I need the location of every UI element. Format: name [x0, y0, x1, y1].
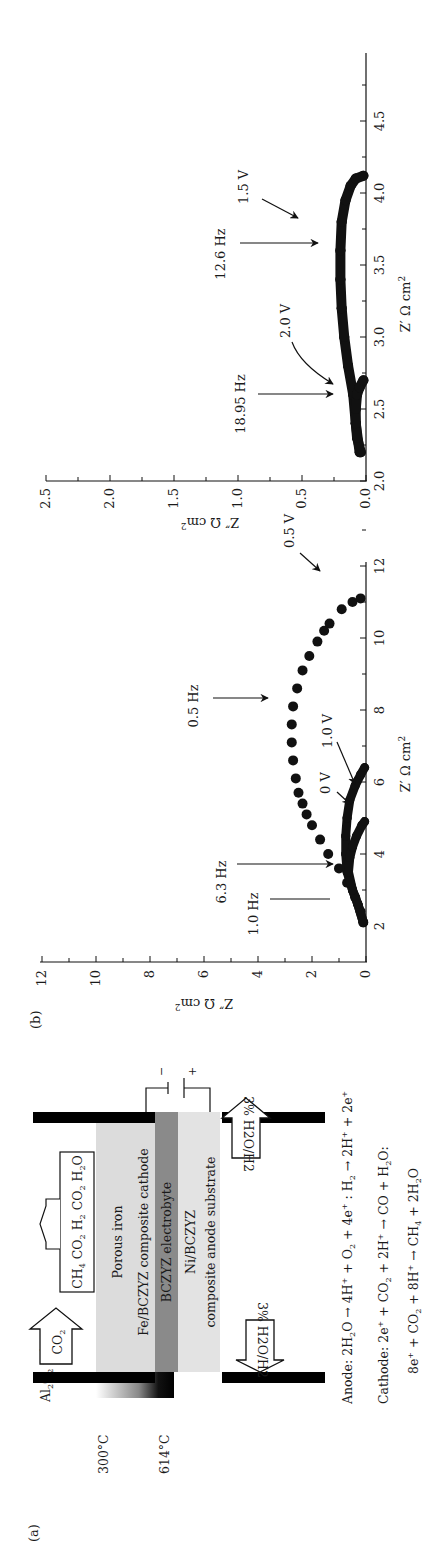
exhaust-label: CH4 CO2 H2 CO2 H2O [70, 1155, 87, 1289]
x-axis-ticks: 2.02.53.03.54.04.5 [360, 85, 387, 491]
tube-wall-top-left [33, 1112, 155, 1123]
label-12.6hz: 12.6 Hz [213, 228, 228, 279]
data-point [358, 375, 368, 385]
svg-text:4.5: 4.5 [372, 111, 387, 132]
data-point [312, 637, 322, 647]
electrolyte-label: BCZYZ electrobyte [159, 1182, 174, 1302]
data-point [323, 849, 333, 859]
panel-b-label: (b) [28, 1011, 43, 1029]
figure-frame: (a) 300°C 614°C Al2O2 tube Porous iron F… [0, 0, 439, 1554]
svg-text:2.0: 2.0 [372, 471, 387, 492]
data-point [288, 755, 298, 765]
data-point [325, 619, 335, 629]
data-point [287, 719, 297, 729]
negative-terminal: − [155, 1067, 168, 1076]
data-point [288, 701, 298, 711]
data-point [287, 737, 297, 747]
label-18.95hz: 18.95 Hz [233, 374, 248, 434]
cathode-equation-1: Cathode: 2e+ + CO2 + 2H+ → CO + H2O: [376, 1146, 393, 1404]
svg-text:10: 10 [88, 970, 103, 987]
arrow-2.0v [292, 342, 333, 384]
svg-text:1.0: 1.0 [230, 488, 245, 509]
anode-inlet-label: 3% H2O/H2 [255, 1302, 270, 1378]
label-0.5hz: 0.5 Hz [186, 684, 201, 727]
panel-a-label: (a) [26, 1524, 41, 1542]
data-point [337, 604, 347, 614]
svg-text:12: 12 [372, 558, 387, 575]
svg-text:1.5: 1.5 [166, 488, 181, 509]
label-0.5v: 0.5 V [282, 513, 297, 548]
data-point [315, 835, 325, 845]
svg-text:8: 8 [372, 706, 387, 714]
arrow-1.0v [337, 742, 355, 784]
data-point [291, 773, 301, 783]
x-axis-ticks: 24681012 [360, 530, 387, 930]
svg-text:3.5: 3.5 [372, 255, 387, 276]
anode-label-2: composite anode substrate [203, 1157, 218, 1328]
svg-text:6: 6 [196, 970, 211, 978]
svg-text:0.0: 0.0 [358, 488, 373, 509]
svg-text:2: 2 [304, 970, 319, 978]
y-axis-label: Z″ Ω cm2 [181, 515, 239, 531]
data-point [356, 593, 366, 603]
arrow-1.5v [262, 199, 298, 218]
label-6.3hz: 6.3 Hz [214, 860, 229, 903]
label-0v: 0 V [318, 772, 333, 794]
x-axis-label: Z′ Ω cm2 [397, 736, 413, 792]
arrow-0.5v [300, 553, 320, 571]
label-1.0v: 1.0 V [320, 713, 335, 748]
svg-text:2.5: 2.5 [38, 488, 53, 509]
svg-text:2.0: 2.0 [102, 488, 117, 509]
data-point [292, 683, 302, 693]
power-source: − + [146, 1067, 210, 1112]
data-point [294, 788, 304, 798]
data-points [335, 171, 368, 457]
x-axis-label: Z′ Ω cm2 [397, 276, 413, 332]
tube-wall-bottom-left [33, 1372, 155, 1383]
panel-a-diagram: (a) 300°C 614°C Al2O2 tube Porous iron F… [18, 1067, 423, 1542]
svg-text:0.5: 0.5 [294, 488, 309, 509]
cathode-equation-2: 8e+ + CO2 + 8H+ → CH4 + 2H2O [406, 1168, 423, 1374]
label-1.0hz: 1.0 Hz [246, 892, 261, 935]
data-point [298, 799, 308, 809]
cathode-label-1: Porous iron [110, 1206, 125, 1279]
data-point [358, 171, 368, 181]
svg-text:2.5: 2.5 [372, 399, 387, 420]
cathode-label-2: Fe/BCZYZ composite cathode [136, 1148, 151, 1335]
data-point [360, 763, 369, 772]
anode-equation: Anode: 2H2O → 4H+ + O2 + 4e+ : H2 → 2H+ … [340, 1091, 357, 1405]
nyquist-plot-high-voltage: 0.00.51.01.52.02.5 2.02.53.03.54.04.5 Z″… [38, 53, 413, 531]
y-axis-ticks: 0.00.51.01.52.02.5 [38, 475, 373, 509]
label-1.5v: 1.5 V [236, 169, 251, 204]
data-point [302, 809, 312, 819]
label-2.0v: 2.0 V [278, 303, 293, 338]
svg-text:3.0: 3.0 [372, 327, 387, 348]
svg-text:0: 0 [358, 970, 373, 978]
data-point [304, 651, 314, 661]
anode-outlet-label: 3% H2O/H2 [241, 1096, 256, 1172]
temperature-high: 614°C [157, 1434, 172, 1474]
data-point [360, 817, 369, 826]
svg-text:4.0: 4.0 [372, 183, 387, 204]
nyquist-plot-low-voltage: (b) 024681012 24681012 Z″ Ω cm2 Z′ Ω cm2… [28, 513, 413, 1029]
data-points [287, 593, 369, 927]
figure-canvas: (a) 300°C 614°C Al2O2 tube Porous iron F… [0, 0, 439, 1554]
svg-text:8: 8 [142, 970, 157, 978]
data-point [307, 820, 317, 830]
svg-text:6: 6 [372, 778, 387, 786]
svg-text:10: 10 [372, 630, 387, 647]
svg-text:4: 4 [250, 970, 265, 978]
svg-text:4: 4 [372, 850, 387, 858]
svg-text:2: 2 [372, 922, 387, 930]
y-axis-label: Z″ Ω cm2 [175, 996, 233, 1012]
exhaust-arrow-icon [40, 1199, 60, 1249]
positive-terminal: + [186, 1067, 199, 1076]
svg-text:12: 12 [34, 970, 49, 987]
y-axis-ticks: 024681012 [34, 956, 373, 987]
anode-label-1: Ni/BCZYZ [183, 1210, 198, 1274]
tube-wall-bottom-right [222, 1372, 325, 1383]
data-point [298, 665, 308, 675]
temperature-low: 300°C [96, 1434, 111, 1474]
